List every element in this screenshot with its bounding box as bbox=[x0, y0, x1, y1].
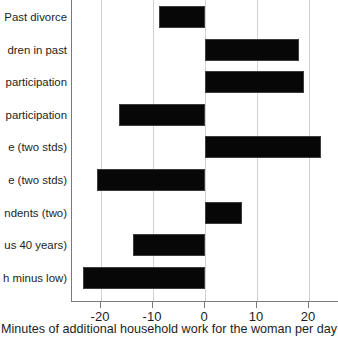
category-label: us 40 years) bbox=[4, 239, 67, 251]
bar bbox=[97, 169, 205, 191]
category-label: h minus low) bbox=[3, 272, 67, 284]
x-tick bbox=[256, 302, 257, 308]
plot-area bbox=[71, 0, 338, 302]
horizontal-bar-chart: Past divorcedren in pastparticipationpar… bbox=[0, 0, 338, 338]
x-tick-label: 0 bbox=[200, 309, 207, 324]
bar bbox=[83, 267, 205, 289]
x-tick-label: 20 bbox=[301, 309, 315, 324]
x-tick bbox=[204, 302, 205, 308]
gridline-neg20 bbox=[101, 0, 102, 302]
x-axis-title: Minutes of additional household work for… bbox=[0, 322, 338, 336]
category-label: ndents (two) bbox=[4, 207, 67, 219]
category-label: dren in past bbox=[7, 44, 67, 56]
bar bbox=[133, 234, 205, 256]
category-label: Past divorce bbox=[4, 11, 67, 23]
bar bbox=[119, 104, 205, 126]
category-label: e (two stds) bbox=[8, 141, 67, 153]
x-tick-label: 10 bbox=[249, 309, 263, 324]
category-label: e (two stds) bbox=[8, 174, 67, 186]
bar bbox=[205, 39, 299, 61]
x-tick-label: -10 bbox=[143, 309, 162, 324]
bar bbox=[205, 136, 321, 158]
bar bbox=[159, 6, 205, 28]
bar bbox=[205, 202, 242, 224]
x-tick-label: -20 bbox=[91, 309, 110, 324]
gridline-neg10 bbox=[153, 0, 154, 302]
category-label: participation bbox=[6, 109, 67, 121]
x-tick bbox=[152, 302, 153, 308]
x-tick bbox=[100, 302, 101, 308]
bar bbox=[205, 71, 304, 93]
x-tick bbox=[308, 302, 309, 308]
category-label: participation bbox=[6, 76, 67, 88]
category-label-column: Past divorcedren in pastparticipationpar… bbox=[0, 0, 71, 302]
